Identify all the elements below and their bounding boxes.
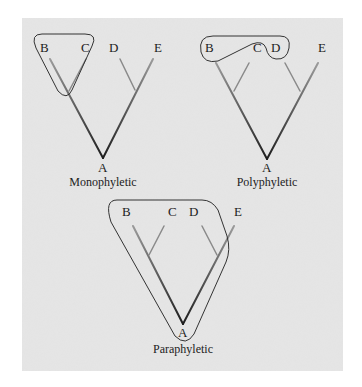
monophyletic-tree: B C D E A Monophyletic bbox=[34, 34, 162, 189]
cladogram-figure: B C D E A Monophyletic B C D E A Polyphy… bbox=[0, 0, 362, 387]
taxon-label-c: C bbox=[253, 40, 262, 55]
tree-branches bbox=[133, 226, 234, 324]
taxon-label-b: B bbox=[205, 40, 214, 55]
polyphyletic-tree: B C D E A Polyphyletic bbox=[201, 36, 327, 189]
tree-branches bbox=[50, 59, 153, 158]
root-label-a: A bbox=[98, 160, 108, 175]
taxon-label-b: B bbox=[40, 40, 49, 55]
taxon-label-b: B bbox=[122, 204, 131, 219]
caption-monophyletic: Monophyletic bbox=[69, 175, 136, 189]
root-label-a: A bbox=[262, 160, 272, 175]
taxon-label-d: D bbox=[109, 40, 118, 55]
taxon-label-d: D bbox=[271, 40, 280, 55]
taxon-label-e: E bbox=[234, 204, 242, 219]
tree-branches bbox=[216, 63, 318, 159]
root-label-a: A bbox=[178, 325, 188, 340]
taxon-label-d: D bbox=[189, 204, 198, 219]
taxon-label-c: C bbox=[81, 40, 90, 55]
taxon-label-c: C bbox=[168, 204, 177, 219]
caption-polyphyletic: Polyphyletic bbox=[237, 175, 298, 189]
taxon-label-e: E bbox=[318, 40, 326, 55]
caption-paraphyletic: Paraphyletic bbox=[153, 342, 213, 356]
taxon-label-e: E bbox=[154, 40, 162, 55]
paraphyletic-tree: B C D E A Paraphyletic bbox=[109, 200, 242, 356]
